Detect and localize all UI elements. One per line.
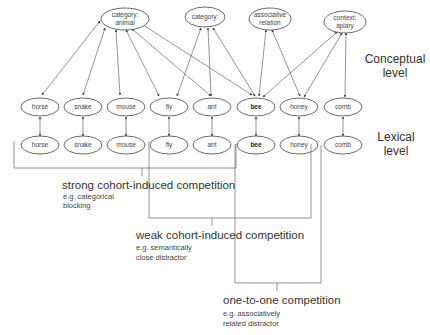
svg-text:e.g. semantically: e.g. semantically: [136, 243, 192, 252]
lexical-node-horse: horse: [21, 136, 59, 154]
svg-text:Conceptual: Conceptual: [365, 52, 426, 66]
lexical-node-ant: ant: [193, 136, 231, 154]
svg-text:fly: fly: [166, 141, 173, 149]
svg-text:bee: bee: [250, 141, 262, 148]
svg-text:horse: horse: [32, 103, 49, 110]
svg-text:mouse: mouse: [116, 103, 136, 110]
conceptual-node-mouse: mouse: [107, 98, 145, 116]
concept-node-category-animal: category: animal: [101, 8, 149, 30]
svg-text:honey: honey: [290, 141, 308, 149]
svg-text:mouse: mouse: [116, 141, 136, 148]
concept-arrows: [42, 21, 346, 97]
svg-text:strong cohort-induced competit: strong cohort-induced competition: [62, 179, 235, 191]
svg-text:Lexical: Lexical: [377, 130, 414, 144]
lexical-node-snake: snake: [64, 136, 102, 154]
conceptual-node-bee: bee: [237, 98, 275, 116]
svg-text:apiary: apiary: [336, 22, 354, 30]
svg-text:associative: associative: [254, 11, 287, 18]
conceptual-node-fly: fly: [150, 98, 188, 116]
concept-node-context-apiary: context: apiary: [324, 11, 366, 33]
svg-text:snake: snake: [74, 141, 92, 148]
svg-text:comb: comb: [335, 103, 351, 110]
conceptual-word-nodes: horse snake mouse fly ant bee honey comb: [21, 98, 362, 116]
semantic-competition-diagram: category: animal category: associative r…: [0, 0, 430, 335]
svg-text:e.g. categorical: e.g. categorical: [63, 192, 114, 201]
svg-text:category:: category:: [112, 11, 139, 19]
concept-node-associative-relation: associative relation: [249, 8, 291, 30]
weak-competition-label: weak cohort-induced competition e.g. sem…: [135, 229, 304, 262]
svg-text:one-to-one competition: one-to-one competition: [223, 294, 341, 306]
svg-text:close distractor: close distractor: [136, 253, 187, 262]
svg-text:e.g. associatively: e.g. associatively: [223, 309, 280, 318]
svg-text:horse: horse: [32, 141, 49, 148]
svg-text:level: level: [384, 144, 409, 158]
conceptual-node-honey: honey: [280, 98, 318, 116]
svg-text:comb: comb: [335, 141, 351, 148]
lexical-level-label: Lexical level: [377, 130, 414, 158]
svg-text:weak cohort-induced competitio: weak cohort-induced competition: [135, 229, 304, 241]
svg-text:honey: honey: [290, 103, 308, 111]
svg-text:context:: context:: [334, 14, 357, 21]
svg-text:bee: bee: [250, 103, 262, 110]
conceptual-node-ant: ant: [193, 98, 231, 116]
lexical-node-honey: honey: [280, 136, 318, 154]
svg-text:ant: ant: [207, 141, 216, 148]
lexical-node-bee: bee: [237, 136, 275, 154]
conceptual-node-horse: horse: [21, 98, 59, 116]
svg-text:blocking: blocking: [63, 201, 91, 210]
competition-brackets: [14, 141, 321, 291]
svg-text:related distractor: related distractor: [223, 319, 279, 328]
lexical-node-fly: fly: [150, 136, 188, 154]
svg-text:level: level: [383, 66, 408, 80]
svg-text:fly: fly: [166, 103, 173, 111]
svg-text:category:: category:: [192, 13, 219, 21]
lexical-node-comb: comb: [324, 136, 362, 154]
level-arrows: [40, 117, 343, 136]
conceptual-node-comb: comb: [324, 98, 362, 116]
concept-node-category-insect: category:: [185, 7, 225, 27]
conceptual-node-snake: snake: [64, 98, 102, 116]
conceptual-level-label: Conceptual level: [365, 52, 426, 80]
svg-text:animal: animal: [115, 19, 135, 26]
svg-text:ant: ant: [207, 103, 216, 110]
svg-text:snake: snake: [74, 103, 92, 110]
lexical-node-mouse: mouse: [107, 136, 145, 154]
svg-text:relation: relation: [259, 19, 281, 26]
one-to-one-competition-label: one-to-one competition e.g. associativel…: [223, 294, 341, 328]
